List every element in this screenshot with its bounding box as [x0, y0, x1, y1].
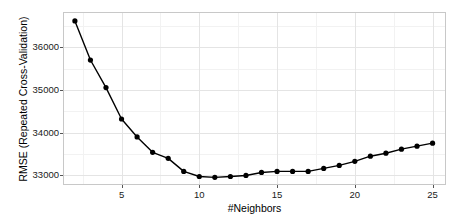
data-point [181, 169, 186, 174]
data-point [368, 154, 373, 159]
plot-area-svg [64, 13, 445, 184]
y-axis-tick-label: 34000 [15, 127, 59, 138]
x-axis-title: #Neighbors [63, 202, 446, 214]
knn-rmse-line-chart: RMSE (Repeated Cross-Validation) 33000 3… [0, 0, 468, 220]
data-point [321, 166, 326, 171]
x-axis-tickmarks [123, 185, 434, 188]
y-axis-tick-label: 35000 [15, 84, 59, 95]
data-point [383, 151, 388, 156]
data-point [212, 175, 217, 180]
y-axis-tick-label: 33000 [15, 169, 59, 180]
rmse-series-points [72, 18, 435, 180]
data-point [166, 156, 171, 161]
plot-panel [63, 12, 446, 185]
data-point [430, 141, 435, 146]
data-point [290, 169, 295, 174]
data-point [72, 18, 77, 23]
data-point [134, 134, 139, 139]
x-axis-tick-label: 15 [257, 189, 297, 200]
data-point [399, 147, 404, 152]
data-point [243, 173, 248, 178]
rmse-series-line [75, 21, 433, 177]
data-point [274, 169, 279, 174]
y-axis-tick-label: 36000 [15, 41, 59, 52]
data-point [197, 174, 202, 179]
data-point [228, 174, 233, 179]
data-point [306, 169, 311, 174]
x-axis-tick-label: 25 [413, 189, 453, 200]
data-point [150, 150, 155, 155]
data-point [119, 116, 124, 121]
data-point [103, 85, 108, 90]
data-point [337, 163, 342, 168]
data-point [414, 144, 419, 149]
minor-gridlines [64, 13, 445, 184]
data-point [88, 57, 93, 62]
x-axis-tick-label: 10 [179, 189, 219, 200]
x-axis-tick-label: 20 [335, 189, 375, 200]
data-point [352, 159, 357, 164]
major-gridlines [64, 13, 445, 184]
data-point [259, 170, 264, 175]
x-axis-tick-label: 5 [102, 189, 142, 200]
